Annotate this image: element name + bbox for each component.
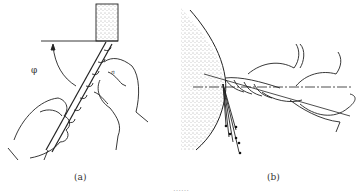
- panel-a-illustration: [8, 4, 148, 160]
- angle-phi-label: φ: [31, 65, 37, 75]
- direction-n-label: n: [111, 68, 115, 75]
- figure-caption: ……: [0, 184, 362, 192]
- grinding-wheel: [96, 4, 118, 41]
- panel-b-label: (b): [267, 172, 280, 182]
- figure: φ n (a) (b): [0, 0, 362, 192]
- panel-a-label: (a): [74, 172, 86, 182]
- panel-b-illustration: [181, 8, 355, 152]
- grinding-wheel-edge: [181, 8, 225, 150]
